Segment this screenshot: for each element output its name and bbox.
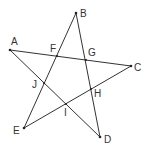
segment-BD	[76, 13, 100, 137]
point-D	[99, 136, 102, 139]
label-F: F	[50, 43, 56, 54]
segment-AC	[10, 50, 131, 66]
point-J	[43, 82, 45, 84]
point-I	[65, 103, 67, 105]
label-B: B	[80, 8, 87, 19]
label-I: I	[64, 107, 67, 118]
point-A	[9, 49, 12, 52]
label-H: H	[94, 88, 101, 99]
point-C	[130, 65, 133, 68]
segment-EC	[24, 66, 131, 128]
point-G	[85, 59, 87, 61]
label-G: G	[88, 47, 96, 58]
point-E	[23, 127, 26, 130]
label-A: A	[11, 36, 18, 47]
point-B	[75, 12, 78, 15]
label-J: J	[32, 79, 37, 90]
star-diagram: A B C D E F G H I J	[0, 0, 150, 158]
label-C: C	[134, 62, 141, 73]
label-E: E	[13, 125, 20, 136]
label-D: D	[104, 134, 111, 145]
point-H	[90, 88, 92, 90]
segment-AD	[10, 50, 100, 137]
point-F	[56, 55, 58, 57]
